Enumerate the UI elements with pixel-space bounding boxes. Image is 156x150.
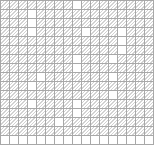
grid-cell-hatched — [45, 63, 54, 72]
grid-cell-blank — [27, 135, 36, 144]
grid-cell-hatched — [90, 99, 99, 108]
grid-cell-hatched — [144, 126, 153, 135]
grid-cell-hatched — [54, 18, 63, 27]
grid-cell-hatched — [117, 54, 126, 63]
grid-cell-hatched — [36, 9, 45, 18]
grid-cell-hatched — [90, 72, 99, 81]
grid-cell-hatched — [144, 117, 153, 126]
grid-cell-hatched — [81, 63, 90, 72]
grid-cell-blank — [117, 135, 126, 144]
grid-cell-hatched — [27, 36, 36, 45]
grid-cell-hatched — [135, 18, 144, 27]
grid-cell-hatched — [72, 72, 81, 81]
grid-cell-hatched — [126, 108, 135, 117]
grid-cell-hatched — [27, 108, 36, 117]
grid-cell-blank — [27, 18, 36, 27]
grid-cell-hatched — [27, 63, 36, 72]
grid-cell-blank — [72, 63, 81, 72]
grid-cell-hatched — [99, 9, 108, 18]
grid-cell-hatched — [126, 126, 135, 135]
grid-cell-hatched — [99, 0, 108, 9]
grid-cell-hatched — [108, 45, 117, 54]
grid-cell-hatched — [108, 99, 117, 108]
grid-cell-hatched — [126, 18, 135, 27]
grid-cell-hatched — [108, 81, 117, 90]
grid-cell-hatched — [144, 27, 153, 36]
grid-cell-hatched — [0, 54, 9, 63]
grid-cell-hatched — [144, 18, 153, 27]
grid-cell-hatched — [135, 108, 144, 117]
grid-cell-hatched — [0, 81, 9, 90]
grid-cell-hatched — [144, 108, 153, 117]
grid-cell-blank — [27, 81, 36, 90]
grid-cell-hatched — [0, 18, 9, 27]
grid-cell-hatched — [99, 18, 108, 27]
grid-cell-hatched — [36, 117, 45, 126]
grid-cell-hatched — [45, 9, 54, 18]
hatched-grid-canvas — [0, 0, 156, 150]
grid-cell-hatched — [36, 36, 45, 45]
grid-cell-hatched — [126, 54, 135, 63]
grid-cell-blank — [117, 27, 126, 36]
grid-cell-blank — [144, 135, 153, 144]
grid-cell-hatched — [144, 0, 153, 9]
grid-cell-hatched — [9, 54, 18, 63]
grid-cell-hatched — [36, 27, 45, 36]
grid-cell-blank — [72, 108, 81, 117]
grid-cell-hatched — [126, 72, 135, 81]
grid-cell-hatched — [72, 81, 81, 90]
grid-cell-hatched — [18, 117, 27, 126]
grid-cell-blank — [108, 54, 117, 63]
grid-cell-hatched — [126, 63, 135, 72]
grid-cell-blank — [99, 135, 108, 144]
grid-cell-hatched — [81, 81, 90, 90]
grid-cell-hatched — [9, 108, 18, 117]
grid-cell-hatched — [108, 63, 117, 72]
grid-cell-blank — [72, 99, 81, 108]
grid-cell-hatched — [54, 54, 63, 63]
grid-cell-hatched — [108, 9, 117, 18]
grid-cell-hatched — [90, 90, 99, 99]
grid-cell-hatched — [90, 108, 99, 117]
grid-cell-hatched — [18, 81, 27, 90]
grid-cell-hatched — [126, 45, 135, 54]
grid-cell-blank — [36, 135, 45, 144]
grid-cell-hatched — [90, 63, 99, 72]
grid-cell-hatched — [99, 117, 108, 126]
grid-cell-hatched — [36, 63, 45, 72]
grid-cell-hatched — [72, 126, 81, 135]
grid-cell-hatched — [9, 81, 18, 90]
grid-cell-hatched — [117, 63, 126, 72]
grid-cell-hatched — [117, 99, 126, 108]
grid-cell-hatched — [90, 54, 99, 63]
grid-cell-hatched — [18, 63, 27, 72]
grid-cell-hatched — [63, 9, 72, 18]
grid-cell-hatched — [135, 117, 144, 126]
grid-cell-hatched — [144, 72, 153, 81]
grid-cell-hatched — [54, 99, 63, 108]
grid-cell-hatched — [90, 117, 99, 126]
grid-cell-hatched — [36, 18, 45, 27]
grid-cell-hatched — [144, 45, 153, 54]
grid-cell-hatched — [99, 90, 108, 99]
grid-cell-hatched — [45, 99, 54, 108]
grid-cell-hatched — [72, 27, 81, 36]
grid-cell-hatched — [81, 90, 90, 99]
grid-cell-hatched — [0, 36, 9, 45]
grid-cell-hatched — [54, 9, 63, 18]
grid-cell-hatched — [135, 0, 144, 9]
grid-cell-hatched — [108, 0, 117, 9]
grid-cell-hatched — [81, 18, 90, 27]
grid-cell-hatched — [9, 63, 18, 72]
grid-cell-hatched — [126, 36, 135, 45]
grid-cell-hatched — [27, 90, 36, 99]
grid-cell-hatched — [126, 99, 135, 108]
grid-cell-hatched — [45, 36, 54, 45]
grid-cell-hatched — [36, 81, 45, 90]
hatched-grid — [0, 0, 154, 145]
grid-cell-hatched — [45, 117, 54, 126]
grid-cell-hatched — [63, 126, 72, 135]
grid-cell-hatched — [81, 117, 90, 126]
grid-cell-hatched — [72, 36, 81, 45]
grid-cell-hatched — [135, 72, 144, 81]
